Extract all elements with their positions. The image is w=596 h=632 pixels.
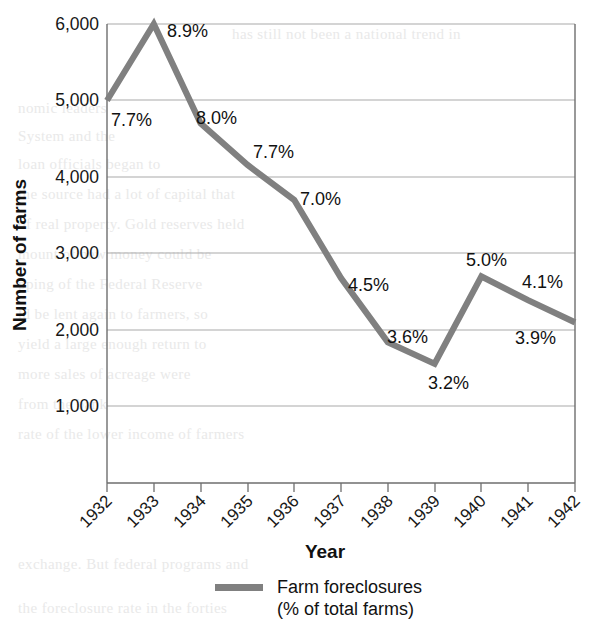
xtick-label-1937: 1937 [310, 491, 350, 531]
xtick-label-1935: 1935 [217, 491, 257, 531]
data-label-1934: 8.0% [196, 108, 237, 128]
y-axis-tick-labels: 6,000 5,000 4,000 3,000 2,000 1,000 [55, 14, 99, 416]
data-label-1933: 8.9% [167, 21, 208, 41]
ytick-label-6000: 6,000 [55, 14, 99, 34]
data-label-1942: 3.9% [515, 328, 556, 348]
data-label-1932: 7.7% [111, 110, 152, 130]
x-axis-title: Year [305, 541, 346, 562]
data-label-1939: 3.2% [428, 373, 469, 393]
legend-label-line1: Farm foreclosures [277, 577, 422, 597]
xtick-label-1933: 1933 [123, 491, 163, 531]
line-chart: 6,000 5,000 4,000 3,000 2,000 1,000 Numb… [0, 0, 596, 632]
ytick-label-4000: 4,000 [55, 167, 99, 187]
ytick-label-3000: 3,000 [55, 243, 99, 263]
xtick-label-1940: 1940 [450, 491, 490, 531]
xtick-label-1939: 1939 [404, 491, 444, 531]
xtick-label-1934: 1934 [170, 491, 210, 531]
data-label-1936: 7.0% [300, 189, 341, 209]
chart-container: has still not been a national trend in n… [0, 0, 596, 632]
legend: Farm foreclosures (% of total farms) [215, 577, 422, 619]
xtick-label-1942: 1942 [544, 491, 584, 531]
data-label-1940: 5.0% [466, 250, 507, 270]
x-axis-tick-labels: 1932 1933 1934 1935 1936 1937 1938 1939 … [76, 491, 584, 531]
y-axis-title: Number of farms [9, 179, 30, 331]
legend-label-line2: (% of total farms) [277, 599, 414, 619]
xtick-label-1941: 1941 [497, 491, 537, 531]
data-label-1935: 7.7% [253, 142, 294, 162]
data-label-1941: 4.1% [522, 272, 563, 292]
xtick-label-1932: 1932 [76, 491, 116, 531]
data-label-1937: 4.5% [348, 275, 389, 295]
data-label-1938: 3.6% [387, 327, 428, 347]
xtick-label-1938: 1938 [357, 491, 397, 531]
ytick-label-5000: 5,000 [55, 90, 99, 110]
ytick-label-2000: 2,000 [55, 320, 99, 340]
legend-swatch-farm-foreclosures [215, 584, 263, 591]
ytick-label-1000: 1,000 [55, 396, 99, 416]
gridlines [107, 24, 575, 406]
xtick-label-1936: 1936 [263, 491, 303, 531]
x-axis-ticks [107, 483, 575, 492]
